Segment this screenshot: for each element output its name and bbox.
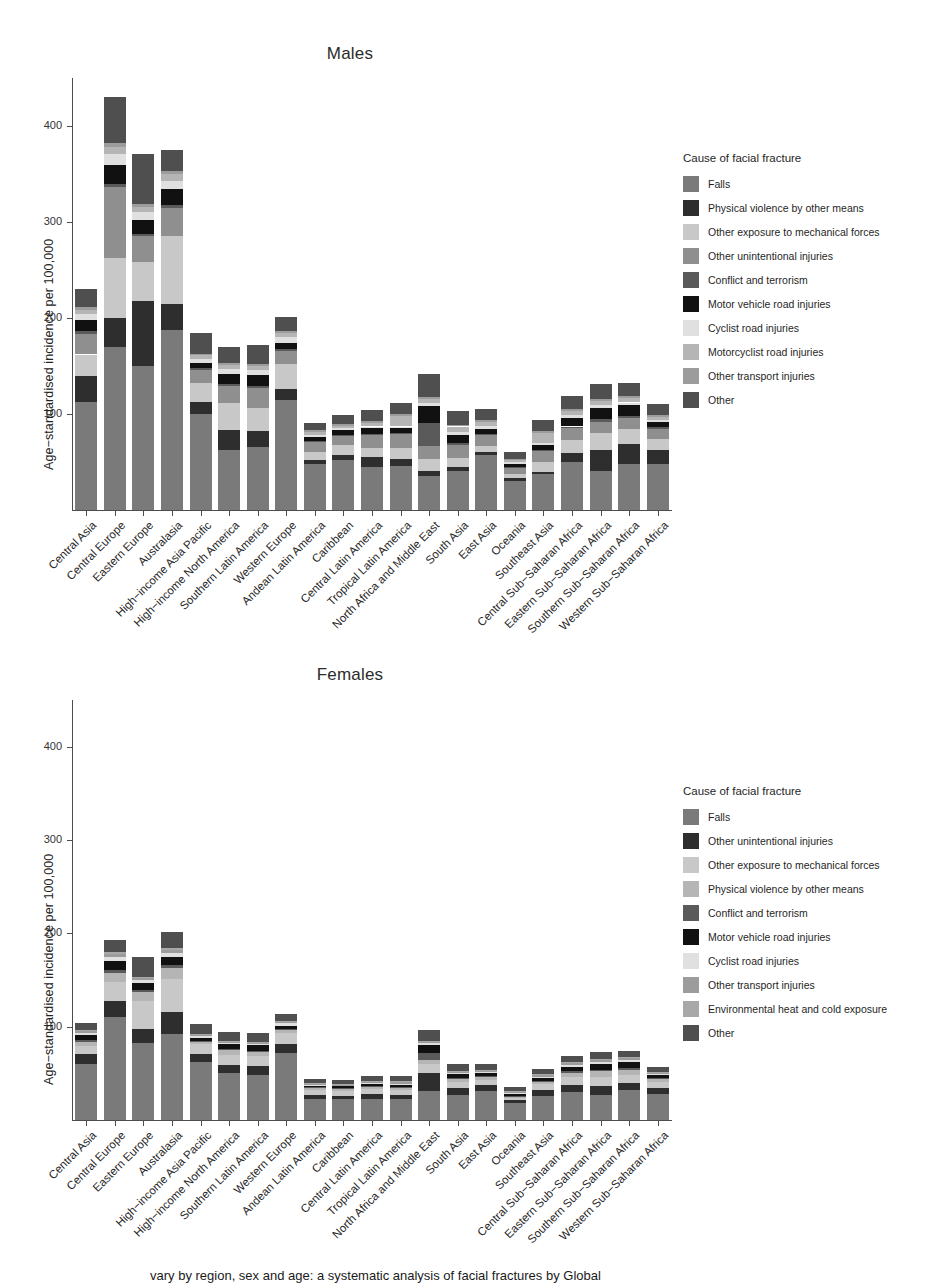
bar-australasia[interactable] <box>161 932 183 1120</box>
bar-east-asia[interactable] <box>475 409 497 510</box>
bar-segment <box>618 1075 640 1082</box>
bar-segment <box>418 423 440 446</box>
legend-item[interactable]: Other exposure to mechanical forces <box>683 220 880 244</box>
bar-segment <box>418 1073 440 1091</box>
bar-segment <box>418 1045 440 1052</box>
bar-segment <box>132 1001 154 1029</box>
legend-item[interactable]: Other unintentional injuries <box>683 829 887 853</box>
bar-south-asia[interactable] <box>447 1064 469 1120</box>
bar-central-europe[interactable] <box>104 940 126 1120</box>
bar-central-latin-america[interactable] <box>361 410 383 510</box>
bar-southern-sub-saharan-africa[interactable] <box>618 1051 640 1120</box>
legend-item[interactable]: Falls <box>683 172 880 196</box>
bar-eastern-sub-saharan-africa[interactable] <box>590 384 612 510</box>
bar-oceania[interactable] <box>504 1087 526 1120</box>
bar-segment <box>332 1088 354 1089</box>
bar-segment <box>132 980 154 983</box>
bar-southern-sub-saharan-africa[interactable] <box>618 383 640 510</box>
bar-segment <box>618 1058 640 1060</box>
bar-western-europe[interactable] <box>275 317 297 510</box>
bar-western-europe[interactable] <box>275 1014 297 1120</box>
legend-item[interactable]: Other exposure to mechanical forces <box>683 853 887 877</box>
bar-segment <box>447 432 469 435</box>
bar-central-sub-saharan-africa[interactable] <box>561 1056 583 1120</box>
bar-australasia[interactable] <box>161 150 183 510</box>
bar-central-asia[interactable] <box>75 1023 97 1120</box>
x-tick-mark <box>143 1121 144 1126</box>
legend-item[interactable]: Physical violence by other means <box>683 877 887 901</box>
bar-caribbean[interactable] <box>332 1080 354 1120</box>
bar-east-asia[interactable] <box>475 1064 497 1120</box>
bar-eastern-europe[interactable] <box>132 957 154 1120</box>
bar-high-income-asia-pacific[interactable] <box>190 333 212 510</box>
bar-segment <box>247 1075 269 1120</box>
bar-southern-latin-america[interactable] <box>247 1033 269 1120</box>
x-tick-mark <box>515 1121 516 1126</box>
bar-central-asia[interactable] <box>75 289 97 510</box>
legend-item-label: Motor vehicle road injuries <box>708 298 831 310</box>
bar-segment <box>161 950 183 953</box>
bar-tropical-latin-america[interactable] <box>390 403 412 510</box>
bar-segment <box>247 388 269 408</box>
bar-southern-latin-america[interactable] <box>247 345 269 510</box>
bar-segment <box>332 1089 354 1091</box>
bar-segment <box>418 406 440 422</box>
legend-swatch-icon <box>683 905 699 921</box>
bar-segment <box>361 427 383 429</box>
bar-segment <box>475 1091 497 1120</box>
x-tick-mark <box>601 511 602 516</box>
bar-segment <box>190 402 212 414</box>
bar-segment <box>275 1029 297 1030</box>
bar-segment <box>447 1079 469 1082</box>
bar-segment <box>361 1086 383 1087</box>
bar-segment <box>218 1049 240 1050</box>
x-tick-mark <box>201 1121 202 1126</box>
legend-item[interactable]: Conflict and terrorism <box>683 901 887 925</box>
bar-central-sub-saharan-africa[interactable] <box>561 396 583 510</box>
legend-item[interactable]: Cyclist road injuries <box>683 316 880 340</box>
bar-oceania[interactable] <box>504 452 526 510</box>
bar-western-sub-saharan-africa[interactable] <box>647 1067 669 1120</box>
bar-segment <box>304 452 326 460</box>
bar-andean-latin-america[interactable] <box>304 423 326 510</box>
bar-segment <box>390 1076 412 1081</box>
bar-segment <box>590 405 612 408</box>
legend-item[interactable]: Physical violence by other means <box>683 196 880 220</box>
legend-item[interactable]: Other <box>683 388 880 412</box>
legend-item[interactable]: Other transport injuries <box>683 973 887 997</box>
legend-item[interactable]: Motor vehicle road injuries <box>683 292 880 316</box>
legend-item[interactable]: Cyclist road injuries <box>683 949 887 973</box>
legend-item[interactable]: Environmental heat and cold exposure <box>683 997 887 1021</box>
legend-item[interactable]: Other transport injuries <box>683 364 880 388</box>
bar-southeast-asia[interactable] <box>532 1069 554 1120</box>
bar-eastern-sub-saharan-africa[interactable] <box>590 1052 612 1120</box>
bar-high-income-north-america[interactable] <box>218 347 240 510</box>
bar-tropical-latin-america[interactable] <box>390 1076 412 1120</box>
males-chart-panel: Males Age−standardised incidence per 100… <box>0 0 931 660</box>
y-tick-mark <box>67 1027 72 1028</box>
bar-south-asia[interactable] <box>447 411 469 510</box>
legend-item[interactable]: Other <box>683 1021 887 1045</box>
bar-central-europe[interactable] <box>104 97 126 510</box>
bar-segment <box>190 383 212 402</box>
bar-eastern-europe[interactable] <box>132 154 154 510</box>
bar-north-africa-and-middle-east[interactable] <box>418 374 440 510</box>
bar-caribbean[interactable] <box>332 415 354 510</box>
legend-item[interactable]: Falls <box>683 805 887 829</box>
legend-item[interactable]: Conflict and terrorism <box>683 268 880 292</box>
bar-andean-latin-america[interactable] <box>304 1079 326 1120</box>
bar-segment <box>161 171 183 174</box>
bar-high-income-north-america[interactable] <box>218 1032 240 1120</box>
bar-segment <box>532 1096 554 1120</box>
legend-item[interactable]: Motorcyclist road injuries <box>683 340 880 364</box>
bar-segment <box>618 416 640 418</box>
bar-high-income-asia-pacific[interactable] <box>190 1024 212 1120</box>
legend-item[interactable]: Other unintentional injuries <box>683 244 880 268</box>
bar-segment <box>104 1017 126 1120</box>
bar-segment <box>190 370 212 383</box>
bar-central-latin-america[interactable] <box>361 1076 383 1120</box>
legend-item[interactable]: Motor vehicle road injuries <box>683 925 887 949</box>
bar-north-africa-and-middle-east[interactable] <box>418 1030 440 1120</box>
bar-southeast-asia[interactable] <box>532 420 554 510</box>
bar-western-sub-saharan-africa[interactable] <box>647 404 669 510</box>
